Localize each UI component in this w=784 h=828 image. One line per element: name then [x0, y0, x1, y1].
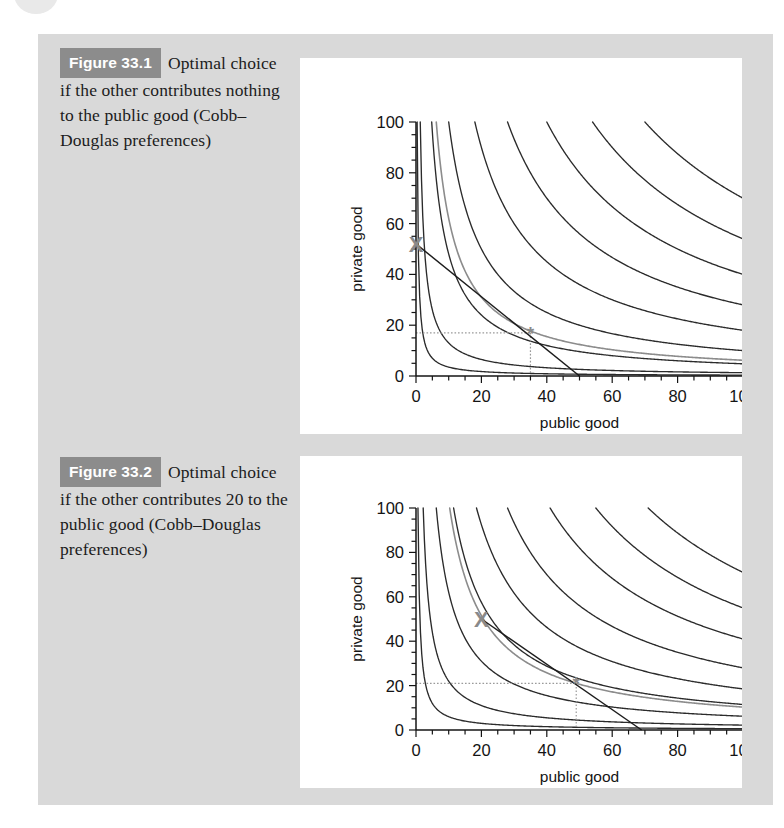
indifference-curve-group	[418, 508, 742, 729]
indifference-curve-chart-1: 020406080100020406080100public goodpriva…	[300, 58, 742, 434]
x-axis-tick-label: 60	[603, 387, 621, 405]
y-axis-tick-label: 100	[376, 113, 404, 131]
y-axis-tick-label: 40	[386, 632, 404, 650]
figure-badge-2: Figure 33.2	[60, 457, 161, 487]
indifference-curve-7	[550, 508, 742, 639]
textbook-page: Figure 33.1Optimal choice if the other c…	[38, 34, 773, 805]
y-axis-tick-label: 40	[386, 265, 404, 283]
x-axis-tick-label: 0	[411, 387, 420, 405]
indifference-curve-6	[508, 122, 742, 305]
x-axis-label: public good	[540, 768, 619, 785]
indifference-curve-9	[648, 508, 742, 572]
chart-panel-2: 020406080100020406080100public goodpriva…	[300, 456, 742, 788]
figure-caption-2: Figure 33.2Optimal choice if the other c…	[60, 457, 290, 562]
y-axis-label: private good	[348, 576, 365, 661]
optimum-star-marker: *	[573, 673, 581, 694]
y-axis-tick-label: 0	[395, 367, 404, 385]
indifference-curve-1	[417, 122, 742, 375]
figure-block-2: Figure 33.2Optimal choice if the other c…	[38, 443, 773, 805]
indifference-curve-7	[547, 122, 742, 274]
x-axis-label: public good	[540, 414, 619, 431]
figure-caption-1: Figure 33.1Optimal choice if the other c…	[60, 48, 290, 153]
indifference-curve-group	[417, 122, 742, 375]
indifference-curve-9	[645, 122, 742, 198]
figure-badge-1: Figure 33.1	[60, 48, 161, 78]
y-axis-tick-label: 20	[386, 316, 404, 334]
indifference-curve-2	[420, 122, 742, 373]
x-axis-tick-label: 0	[411, 741, 420, 759]
y-axis-tick-label: 100	[376, 499, 404, 517]
indifference-curve-2	[423, 508, 742, 725]
endowment-x-marker: X	[409, 232, 424, 257]
chart-panel-1: 020406080100020406080100public goodpriva…	[300, 58, 742, 434]
y-axis-tick-label: 60	[386, 215, 404, 233]
y-axis-label: private good	[348, 206, 365, 291]
optimum-star-marker: *	[527, 323, 535, 344]
x-axis-tick-label: 100	[729, 741, 742, 759]
x-axis-tick-label: 60	[603, 741, 621, 759]
y-axis-tick-label: 80	[386, 164, 404, 182]
indifference-curve-chart-2: 020406080100020406080100public goodpriva…	[300, 456, 742, 788]
budget-line	[416, 244, 580, 376]
figure-block-1: Figure 33.1Optimal choice if the other c…	[38, 34, 773, 406]
indifference-curve-8	[593, 122, 742, 239]
scan-artifact	[14, 0, 58, 14]
indifference-curve-5	[477, 508, 743, 689]
x-axis-tick-label: 80	[668, 387, 686, 405]
indifference-curve-4	[449, 122, 742, 351]
y-axis-tick-label: 0	[395, 721, 404, 739]
x-axis-tick-label: 20	[472, 741, 490, 759]
indifference-curve-1	[418, 508, 742, 729]
x-axis-tick-label: 20	[472, 387, 490, 405]
y-axis-tick-label: 60	[386, 588, 404, 606]
indifference-curve-5	[475, 122, 742, 330]
y-axis-tick-label: 80	[386, 543, 404, 561]
x-axis-tick-label: 80	[668, 741, 686, 759]
indifference-curve-opt	[450, 508, 742, 707]
y-axis-tick-label: 20	[386, 677, 404, 695]
endowment-x-marker: X	[474, 607, 489, 632]
x-axis-tick-label: 100	[729, 387, 742, 405]
indifference-curve-8	[596, 508, 742, 608]
budget-line	[481, 619, 641, 730]
x-axis-tick-label: 40	[538, 387, 556, 405]
x-axis-tick-label: 40	[538, 741, 556, 759]
